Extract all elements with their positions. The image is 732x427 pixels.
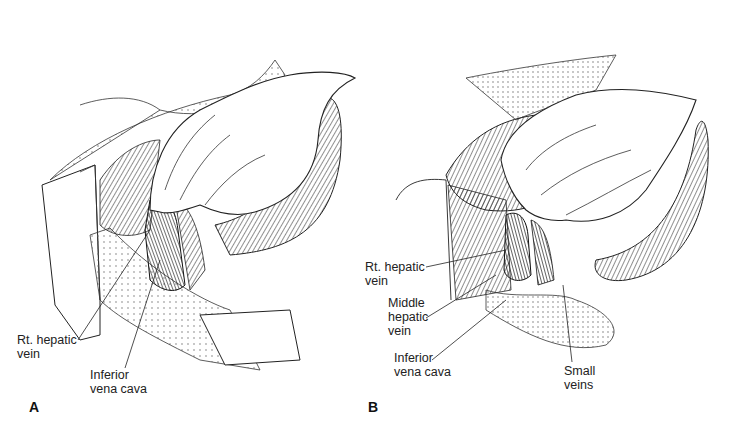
panel-letter-b: B xyxy=(368,399,378,415)
label-middle-hepatic-vein: Middle hepatic vein xyxy=(388,296,428,338)
panel-a: Rt. hepatic vein Inferior vena cava A xyxy=(0,0,366,427)
surgical-illustration-a xyxy=(0,0,366,427)
panel-b: Rt. hepatic vein Middle hepatic vein Inf… xyxy=(366,0,732,427)
label-inferior-vena-cava: Inferior vena cava xyxy=(90,368,147,396)
label-inferior-vena-cava: Inferior vena cava xyxy=(394,351,451,379)
label-small-veins: Small veins xyxy=(564,364,595,392)
label-rt-hepatic-vein: Rt. hepatic vein xyxy=(17,333,77,361)
panel-letter-a: A xyxy=(29,399,39,415)
label-rt-hepatic-vein: Rt. hepatic vein xyxy=(365,260,425,288)
